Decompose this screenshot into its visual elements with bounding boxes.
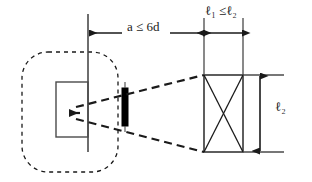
label-spacing-a: a ≤ 6d <box>127 20 159 33</box>
label-length-l2: ℓ₂ <box>275 100 286 113</box>
inner-member-rect <box>56 82 88 137</box>
diagram-canvas: a ≤ 6d ℓ₁ ≤ℓ₂ ℓ₂ <box>0 0 312 182</box>
sight-line-upper <box>76 75 204 107</box>
sight-line-lower <box>76 119 204 152</box>
label-length-l1-l2: ℓ₁ ≤ℓ₂ <box>205 4 237 17</box>
